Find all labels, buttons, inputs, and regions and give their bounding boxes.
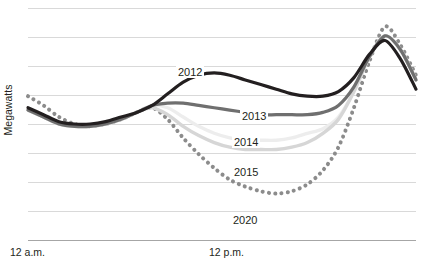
series-label-2014: 2014 <box>232 136 260 148</box>
series-line-2015 <box>28 36 416 150</box>
series-label-2015: 2015 <box>232 166 260 178</box>
series-line-2013 <box>28 36 416 127</box>
x-axis-tick-12am: 12 a.m. <box>10 246 45 258</box>
line-chart: Megawatts 12 a.m. 12 p.m. 2012 2013 2014… <box>0 0 423 268</box>
y-axis-title: Megawatts <box>2 70 14 150</box>
series-label-2020: 2020 <box>231 214 259 226</box>
x-axis-tick-12pm: 12 p.m. <box>209 246 244 258</box>
series-label-2012: 2012 <box>176 66 204 78</box>
series-label-2013: 2013 <box>240 110 268 122</box>
series-layer <box>0 0 423 268</box>
